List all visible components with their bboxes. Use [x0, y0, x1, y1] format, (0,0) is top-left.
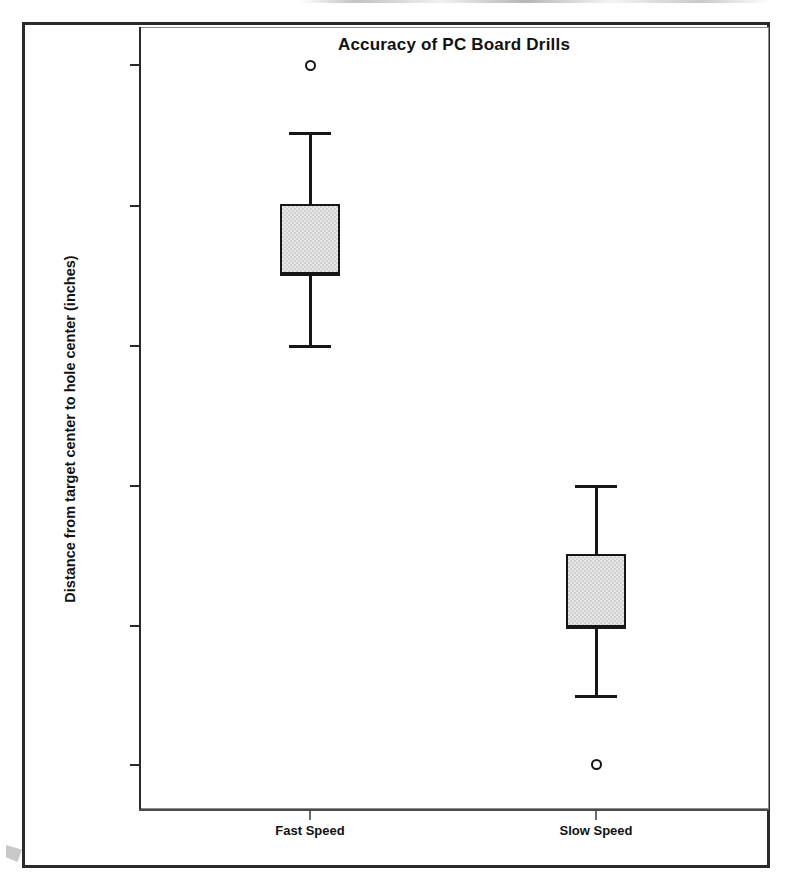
y-tick-mark — [130, 205, 140, 207]
whisker-lower-line — [309, 274, 312, 345]
chart-title: Accuracy of PC Board Drills — [139, 35, 769, 55]
whisker-upper-line — [309, 132, 312, 204]
chart-outer-frame: Accuracy of PC Board Drills Distance fro… — [22, 22, 770, 868]
x-tick-mark — [309, 811, 311, 820]
box-iqr — [566, 554, 626, 627]
outlier-point — [305, 60, 316, 71]
y-axis-title: Distance from target center to hole cent… — [62, 149, 78, 709]
box-iqr — [280, 204, 340, 274]
y-tick-mark — [130, 345, 140, 347]
whisker-upper-line — [595, 485, 598, 554]
whisker-upper-cap — [575, 485, 617, 488]
plot-area — [139, 27, 769, 809]
whisker-lower-cap — [575, 695, 617, 698]
x-tick-label-slow-speed: Slow Speed — [496, 823, 696, 838]
x-axis-line — [139, 809, 769, 811]
x-tick-label-fast-speed: Fast Speed — [210, 823, 410, 838]
whisker-lower-cap — [289, 345, 331, 348]
scan-artifact-corner — [6, 845, 22, 862]
y-tick-mark — [130, 625, 140, 627]
y-axis-spine — [139, 27, 141, 809]
x-tick-mark — [595, 811, 597, 820]
y-tick-mark — [130, 64, 140, 66]
y-tick-mark — [130, 764, 140, 766]
y-tick-mark — [130, 485, 140, 487]
outlier-point — [591, 759, 602, 770]
whisker-upper-cap — [289, 132, 331, 135]
whisker-lower-line — [595, 627, 598, 695]
scan-artifact-top — [300, 0, 770, 3]
